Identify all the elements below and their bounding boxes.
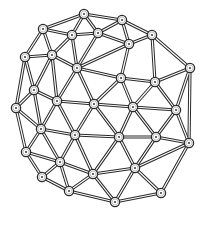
node-center-dot: [24, 56, 26, 58]
node-center-dot: [93, 103, 95, 105]
edge-line-highlight: [93, 168, 135, 174]
edge-line-highlight: [133, 107, 156, 137]
node: [29, 85, 38, 94]
node: [124, 39, 133, 48]
node: [20, 52, 29, 61]
node-center-dot: [71, 34, 73, 36]
node: [72, 63, 81, 72]
node-center-dot: [132, 106, 134, 108]
node: [128, 102, 137, 111]
node-center-dot: [160, 192, 162, 194]
edge-line-highlight: [176, 110, 189, 143]
node-center-dot: [175, 109, 177, 111]
edge-line-highlight: [94, 104, 119, 137]
node: [116, 73, 125, 82]
node-center-dot: [134, 167, 136, 169]
node: [38, 24, 47, 33]
node-center-dot: [151, 34, 153, 36]
node: [55, 157, 64, 166]
edge-line-highlight: [94, 78, 121, 104]
node-center-dot: [33, 89, 35, 91]
node: [130, 163, 139, 172]
node: [156, 188, 165, 197]
node: [64, 186, 73, 195]
edge-line-highlight: [115, 193, 161, 202]
mesh-network-graphic: [0, 0, 209, 225]
node-center-dot: [128, 43, 130, 45]
edge-line-highlight: [77, 68, 94, 104]
node: [184, 138, 193, 147]
node: [52, 96, 61, 105]
edge-line-highlight: [77, 68, 121, 78]
node-center-dot: [68, 190, 70, 192]
node: [88, 169, 97, 178]
edge-line-highlight: [152, 35, 190, 68]
node: [79, 9, 88, 18]
node: [67, 30, 76, 39]
node-center-dot: [25, 151, 27, 153]
node: [114, 132, 123, 141]
node: [185, 63, 194, 72]
mesh-diagram: [0, 0, 209, 225]
node-center-dot: [114, 201, 116, 203]
node: [70, 130, 79, 139]
node: [89, 99, 98, 108]
node: [11, 103, 20, 112]
node-center-dot: [59, 161, 61, 163]
edge-line-highlight: [57, 101, 75, 135]
node-center-dot: [189, 67, 191, 69]
edge-line-highlight: [52, 55, 57, 101]
node-center-dot: [118, 136, 120, 138]
node-center-dot: [188, 142, 190, 144]
edge-line-highlight: [93, 137, 119, 174]
node-center-dot: [40, 128, 42, 130]
node-center-dot: [154, 81, 156, 83]
node: [36, 124, 45, 133]
node: [151, 132, 160, 141]
node-center-dot: [121, 19, 123, 21]
node: [171, 105, 180, 114]
node: [37, 172, 46, 181]
node: [147, 30, 156, 39]
edge-line-highlight: [57, 68, 77, 101]
node: [117, 15, 126, 24]
node-center-dot: [92, 173, 94, 175]
node-center-dot: [51, 54, 53, 56]
node-center-dot: [155, 136, 157, 138]
node-center-dot: [120, 77, 122, 79]
node: [150, 77, 159, 86]
node-center-dot: [56, 100, 58, 102]
node-center-dot: [76, 67, 78, 69]
node-center-dot: [83, 13, 85, 15]
node-center-dot: [97, 32, 99, 34]
node: [93, 28, 102, 37]
edge-line-highlight: [75, 104, 94, 135]
node: [21, 147, 30, 156]
node: [47, 50, 56, 59]
node-center-dot: [15, 107, 17, 109]
node-center-dot: [74, 134, 76, 136]
node-center-dot: [42, 28, 44, 30]
edge-line-highlight: [115, 168, 135, 202]
edge-line-highlight: [135, 168, 161, 193]
edge-line-highlight: [34, 55, 52, 90]
node: [110, 197, 119, 206]
node-center-dot: [41, 176, 43, 178]
